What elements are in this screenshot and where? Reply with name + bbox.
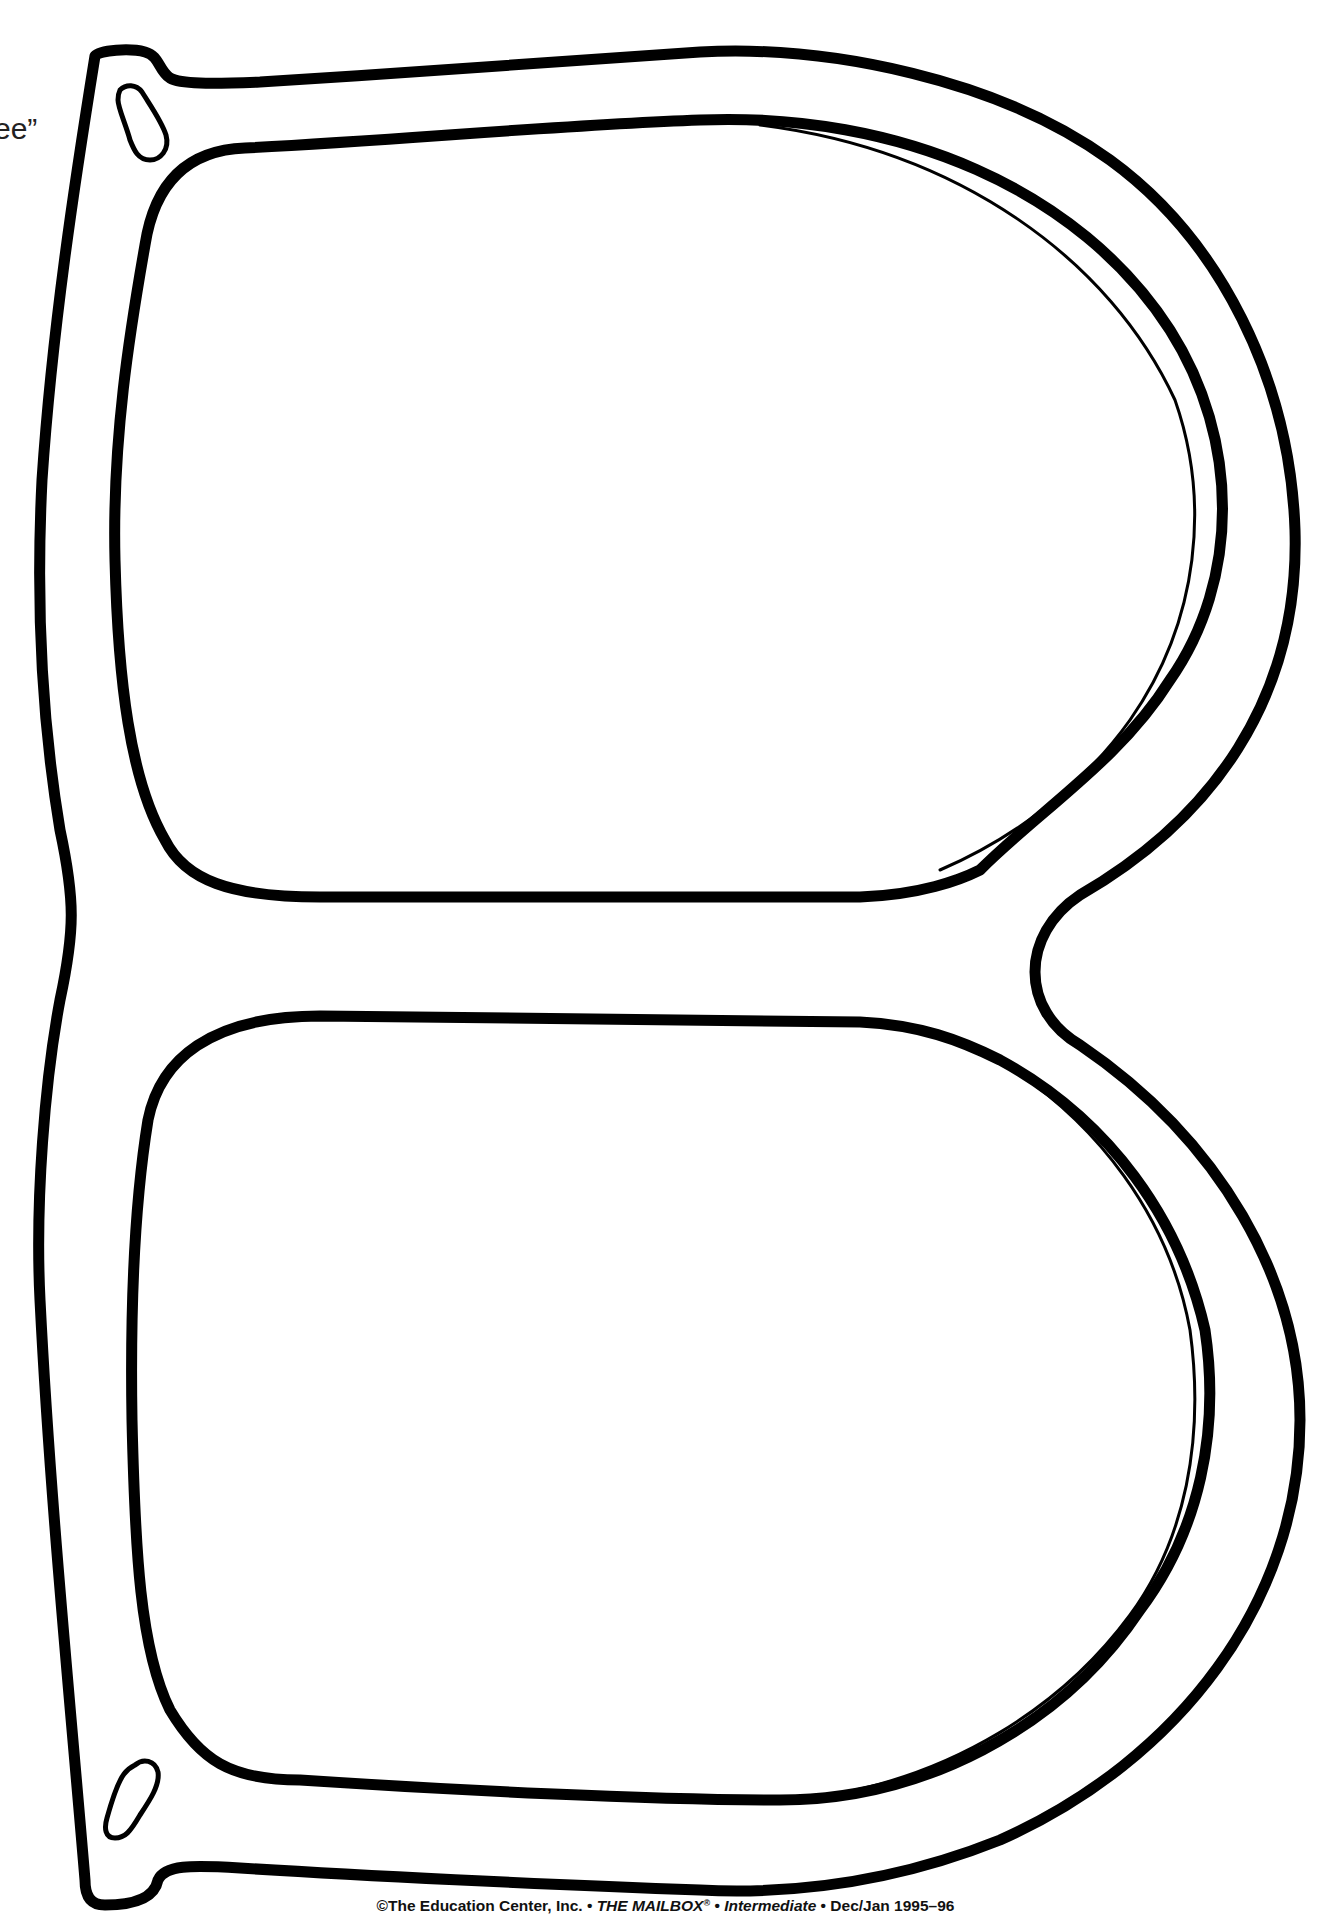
outer-frame-outline: [39, 50, 1300, 1905]
issue-date: • Dec/Jan 1995–96: [816, 1897, 954, 1914]
copyright-prefix: ©The Education Center, Inc. •: [377, 1897, 597, 1914]
upper-lens-inner-line: [760, 125, 1195, 870]
upper-lens-outline: [115, 119, 1223, 897]
eyeglasses-frame-illustration: [0, 0, 1319, 1923]
hinge-slot-bottom: [106, 1761, 159, 1838]
publication-name: THE MAILBOX: [597, 1897, 704, 1914]
worksheet-page: ee” ©The Education Center, Inc. • THE MA…: [0, 0, 1319, 1923]
separator: •: [710, 1897, 724, 1914]
edition-name: Intermediate: [724, 1897, 816, 1914]
hinge-slot-top: [118, 86, 167, 160]
lower-lens-outline: [132, 1016, 1210, 1800]
copyright-footer: ©The Education Center, Inc. • THE MAILBO…: [0, 1897, 1319, 1915]
lower-lens-inner-line: [830, 1055, 1195, 1795]
